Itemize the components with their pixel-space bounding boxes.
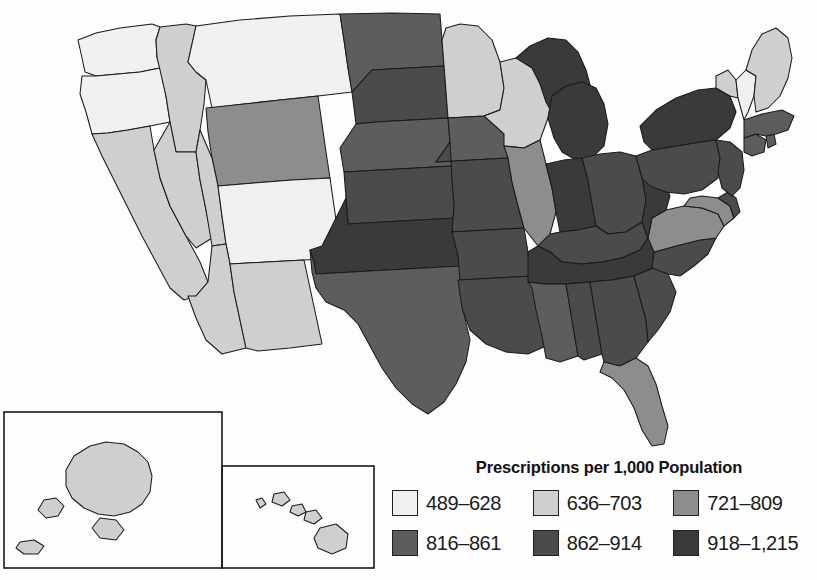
state-mn <box>442 24 504 118</box>
state-nj <box>716 140 744 196</box>
state-ak <box>66 442 152 516</box>
legend: Prescriptions per 1,000 Population 489–6… <box>392 458 812 562</box>
legend-item: 862–914 <box>533 524 672 562</box>
legend-label: 489–628 <box>426 492 501 515</box>
legend-swatch <box>673 490 699 516</box>
state-ma <box>744 110 794 138</box>
legend-label: 862–914 <box>567 532 642 555</box>
state-hi <box>272 492 290 506</box>
state-nh <box>736 70 756 120</box>
legend-label: 636–703 <box>567 492 642 515</box>
map-figure: Prescriptions per 1,000 Population 489–6… <box>0 0 817 580</box>
legend-swatch <box>533 530 559 556</box>
state-hi <box>304 510 322 524</box>
state-ak <box>92 518 124 540</box>
legend-swatch <box>392 490 418 516</box>
state-mt <box>188 14 352 108</box>
state-wy <box>206 96 330 186</box>
state-nm <box>230 260 322 351</box>
legend-label: 918–1,215 <box>707 532 798 555</box>
legend-label: 816–861 <box>426 532 501 555</box>
state-wa <box>78 24 160 76</box>
legend-item: 636–703 <box>533 484 672 522</box>
legend-item: 721–809 <box>673 484 812 522</box>
state-ne <box>340 118 452 172</box>
state-ar <box>452 228 532 280</box>
state-ak <box>38 498 64 518</box>
legend-item: 918–1,215 <box>673 524 812 562</box>
state-ak <box>16 540 44 554</box>
state-hi <box>256 498 266 508</box>
state-ks <box>344 166 456 224</box>
state-or <box>80 68 170 134</box>
legend-item: 816–861 <box>392 524 531 562</box>
hawaii-inset-box <box>222 466 374 568</box>
legend-label: 721–809 <box>707 492 782 515</box>
state-hi <box>290 504 306 516</box>
legend-title: Prescriptions per 1,000 Population <box>406 458 812 477</box>
state-tx <box>310 250 470 414</box>
legend-swatch <box>533 490 559 516</box>
legend-item: 489–628 <box>392 484 531 522</box>
state-hi <box>314 524 348 554</box>
legend-swatch <box>392 530 418 556</box>
state-fl <box>600 358 668 446</box>
legend-grid: 489–628636–703721–809816–861862–914918–1… <box>392 484 812 562</box>
state-mi <box>548 82 608 160</box>
legend-swatch <box>673 530 699 556</box>
